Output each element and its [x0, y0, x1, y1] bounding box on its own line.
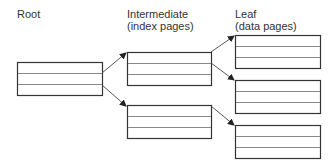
arrow-intermediate-1-to-leaf-2 [211, 63, 234, 80]
arrow-intermediate-1-to-leaf-1 [211, 36, 234, 52]
arrow-intermediate-2-to-leaf-3 [211, 106, 234, 125]
intermediate-node-1 [128, 53, 212, 86]
intermediate-node-2 [128, 106, 212, 139]
leaf-node-2 [236, 81, 321, 114]
root-node [18, 63, 103, 96]
arrow-root-to-intermediate-1 [102, 53, 126, 73]
btree-diagram [0, 0, 336, 163]
leaf-node-3 [236, 126, 321, 159]
arrow-root-to-intermediate-2 [102, 85, 126, 106]
leaf-node-1 [236, 36, 321, 69]
